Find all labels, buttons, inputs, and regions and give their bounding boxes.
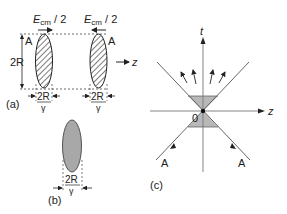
beam-energy-left-label: Ecm / 2 bbox=[33, 13, 66, 27]
nucleus-left-label: A bbox=[25, 35, 33, 47]
width-left-denominator: γ bbox=[41, 103, 46, 113]
panel-c: t z 0 A A (c) bbox=[150, 25, 274, 191]
heavy-ion-collision-diagram: 2R A A Ecm / 2 Ecm / 2 z 2R γ 2R γ (a) 2 bbox=[0, 0, 287, 214]
panel-b: 2R γ (b) bbox=[48, 120, 92, 206]
panel-b-label: (b) bbox=[48, 194, 61, 206]
width-numerator: 2R bbox=[65, 174, 78, 185]
panel-a-label: (a) bbox=[6, 98, 19, 110]
z-axis-label: z bbox=[131, 56, 138, 68]
nucleus-left-ellipse bbox=[36, 34, 53, 88]
incoming-left-label: A bbox=[161, 157, 169, 169]
z-axis-arrow-icon bbox=[258, 109, 265, 114]
width-denominator: γ bbox=[69, 186, 74, 196]
panel-a: 2R A A Ecm / 2 Ecm / 2 z 2R γ 2R γ (a) bbox=[6, 13, 138, 113]
width-right-numerator: 2R bbox=[91, 91, 104, 102]
particle-arrow-icon bbox=[181, 72, 187, 83]
t-axis-arrow-icon bbox=[201, 37, 206, 44]
z-axis-label: z bbox=[267, 105, 274, 117]
width-right-denominator: γ bbox=[96, 103, 101, 113]
t-axis-label: t bbox=[200, 25, 204, 37]
particle-arrow-icon bbox=[210, 70, 213, 84]
particle-arrow-icon bbox=[219, 72, 225, 83]
width-left-numerator: 2R bbox=[37, 91, 50, 102]
nucleus-right-ellipse bbox=[90, 34, 107, 88]
panel-c-label: (c) bbox=[150, 179, 163, 191]
origin-label: 0 bbox=[192, 112, 198, 124]
nucleus-right-label: A bbox=[108, 35, 116, 47]
particle-arrow-icon bbox=[193, 70, 196, 84]
height-label: 2R bbox=[10, 56, 24, 68]
overlapping-nuclei-ellipse bbox=[63, 120, 82, 172]
incoming-right-label: A bbox=[238, 157, 246, 169]
beam-energy-right-label: Ecm / 2 bbox=[84, 13, 117, 27]
collision-point bbox=[201, 109, 205, 113]
